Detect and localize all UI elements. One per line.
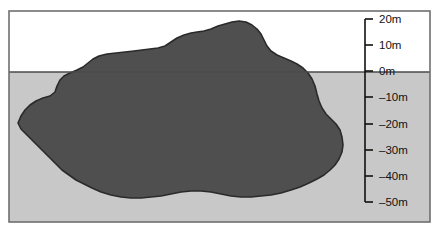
depth-scale-label: –40m: [379, 170, 408, 182]
island-depth-diagram: 20m10m0m–10m–20m–30m–40m–50m: [0, 0, 439, 238]
depth-scale-label: –30m: [379, 144, 408, 156]
diagram-canvas: 20m10m0m–10m–20m–30m–40m–50m: [0, 0, 439, 238]
depth-scale-label: 20m: [379, 13, 401, 25]
depth-scale-label: 0m: [379, 65, 395, 77]
depth-scale-label: 10m: [379, 39, 401, 51]
depth-scale-label: –20m: [379, 118, 408, 130]
depth-scale-label: –50m: [379, 196, 408, 208]
depth-scale-label: –10m: [379, 91, 408, 103]
